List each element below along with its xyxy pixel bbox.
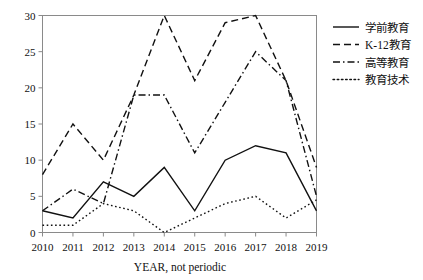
x-tick-label: 2014: [153, 241, 176, 253]
x-tick-label: 2017: [245, 241, 268, 253]
x-tick-label: 2016: [214, 241, 237, 253]
x-tick-label: 2012: [92, 241, 114, 253]
y-tick-label: 10: [25, 154, 37, 166]
line-chart: 051015202530 201020112012201320142015201…: [0, 0, 423, 280]
y-tick-label: 5: [30, 190, 36, 202]
y-tick-label: 20: [25, 82, 37, 94]
x-tick-label: 2011: [62, 241, 84, 253]
legend-label: K-12教育: [365, 38, 411, 51]
x-tick-label: 2019: [306, 241, 329, 253]
legend-label: 高等教育: [365, 56, 409, 69]
chart-background: [0, 0, 423, 280]
legend-label: 教育技术: [365, 73, 410, 86]
y-tick-label: 25: [25, 46, 37, 58]
x-tick-label: 2018: [275, 241, 298, 253]
x-axis-title: YEAR, not periodic: [134, 261, 226, 274]
y-tick-label: 0: [30, 227, 36, 239]
x-tick-label: 2015: [184, 241, 207, 253]
legend-label: 学前教育: [365, 21, 409, 34]
x-tick-label: 2010: [32, 241, 55, 253]
y-tick-label: 15: [25, 118, 37, 130]
x-tick-label: 2013: [123, 241, 146, 253]
y-tick-label: 30: [25, 10, 37, 22]
chart-figure: 051015202530 201020112012201320142015201…: [0, 0, 423, 280]
